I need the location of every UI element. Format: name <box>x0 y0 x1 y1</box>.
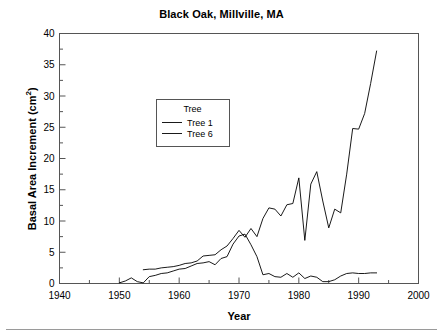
legend-label-2: Tree 6 <box>187 129 213 139</box>
y-axis-tick-labels: 0510152025303540 <box>43 28 55 289</box>
x-tick-label: 1990 <box>348 290 371 301</box>
x-tick-label: 1950 <box>108 290 131 301</box>
plot-frame <box>60 34 419 284</box>
legend: TreeTree 1Tree 6 <box>157 100 230 147</box>
y-tick-label: 25 <box>43 122 55 133</box>
y-tick-label: 20 <box>43 153 55 164</box>
y-tick-label: 40 <box>43 28 55 39</box>
y-tick-label: 35 <box>43 59 55 70</box>
legend-title: Tree <box>183 104 201 114</box>
x-tick-label: 1960 <box>168 290 191 301</box>
x-axis-tick-labels: 1940195019601970198019902000 <box>48 290 430 301</box>
bottom-divider <box>6 329 437 330</box>
x-tick-label: 1940 <box>48 290 71 301</box>
chart-figure: Black Oak, Millville, MA Basal Area Incr… <box>0 0 443 336</box>
legend-label-1: Tree 1 <box>187 118 213 128</box>
y-tick-label: 5 <box>49 247 55 258</box>
x-tick-label: 1970 <box>228 290 251 301</box>
y-tick-label: 0 <box>49 278 55 289</box>
y-tick-label: 30 <box>43 91 55 102</box>
y-tick-label: 15 <box>43 184 55 195</box>
plot-area: 0510152025303540 19401950196019701980199… <box>0 0 443 336</box>
x-tick-label: 2000 <box>407 290 430 301</box>
x-tick-label: 1980 <box>288 290 311 301</box>
y-tick-label: 10 <box>43 216 55 227</box>
